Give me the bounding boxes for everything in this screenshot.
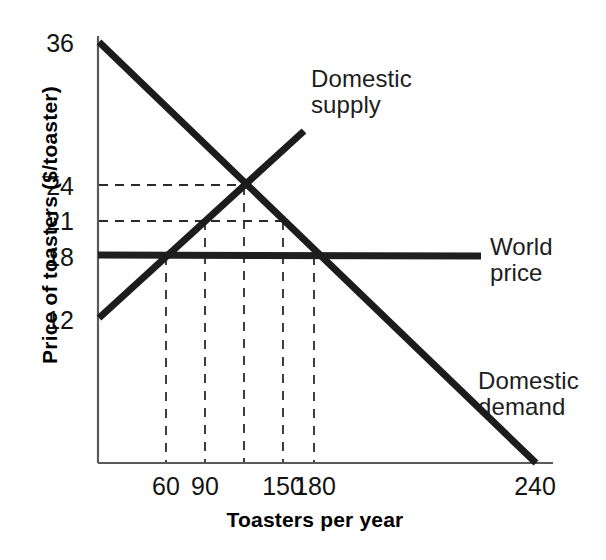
domestic-supply-label-line1: Domestic bbox=[311, 66, 412, 93]
domestic-demand-label-line2: demand bbox=[478, 394, 565, 421]
domestic-supply-label-line2: supply bbox=[311, 92, 381, 119]
x-axis-title: Toasters per year bbox=[150, 508, 480, 532]
world-price-curve bbox=[98, 255, 481, 256]
domestic-supply-curve bbox=[99, 131, 304, 318]
x-tick-label-180: 180 bbox=[280, 472, 350, 500]
world-price-label-line2: price bbox=[490, 260, 543, 287]
economics-chart: 36 24 21 18 12 60 90 150 180 240 Domesti… bbox=[0, 0, 606, 560]
x-tick-label-240: 240 bbox=[500, 472, 570, 500]
y-axis-title: Price of toasters ($/toaster) bbox=[38, 10, 62, 440]
x-tick-label-90: 90 bbox=[175, 472, 235, 500]
world-price-label-line1: World bbox=[490, 234, 553, 261]
domestic-demand-label-line1: Domestic bbox=[478, 368, 579, 395]
